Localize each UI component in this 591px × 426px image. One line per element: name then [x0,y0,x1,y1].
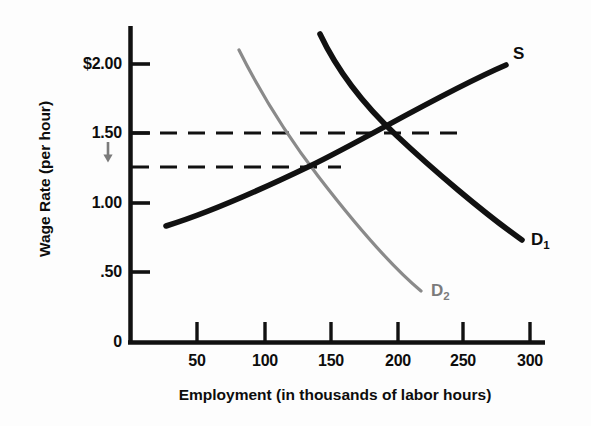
x-tick-label-200: 200 [368,352,428,370]
x-tick-marks [197,322,530,341]
x-tick-label-100: 100 [235,352,295,370]
curve-demand-2 [239,50,421,291]
y-axis-title: Wage Rate (per hour) [36,74,54,284]
x-tick-label-250: 250 [433,352,493,370]
y-tick-label-0: 0 [26,333,122,351]
x-axis-title: Employment (in thousands of labor hours) [130,386,540,404]
curve-label-supply: S [513,44,524,64]
curve-supply [166,65,506,226]
x-tick-label-50: 50 [167,352,227,370]
curve-label-demand-1-sub: 1 [543,239,549,251]
curve-demand-1 [320,34,522,240]
y-tick-label-2-00: $2.00 [26,55,122,73]
curve-label-demand-1-base: D [531,230,543,249]
curve-label-demand-1: D1 [531,230,550,251]
curve-label-demand-2-sub: 2 [443,290,449,302]
curve-label-demand-2: D2 [431,281,450,302]
x-tick-label-150: 150 [301,352,361,370]
wage-decrease-arrow-icon [103,142,112,163]
x-tick-label-300: 300 [500,352,560,370]
curve-label-demand-2-base: D [431,281,443,300]
chart-figure: $2.00 1.50 1.00 .50 0 50 100 150 200 250… [0,0,591,426]
